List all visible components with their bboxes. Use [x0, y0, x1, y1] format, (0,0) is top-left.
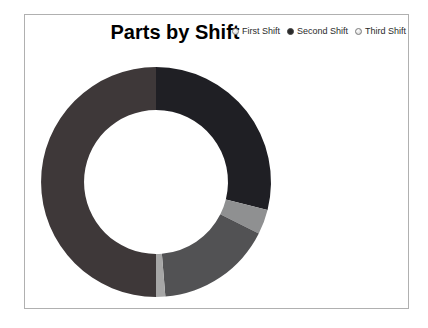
donut-segment-5-dark-maroon[interactable]: [41, 67, 156, 297]
donut-chart: [0, 0, 428, 328]
donut-segment-3-medium-gray[interactable]: [162, 214, 259, 296]
donut-segment-1-dark-navy[interactable]: [156, 67, 271, 210]
